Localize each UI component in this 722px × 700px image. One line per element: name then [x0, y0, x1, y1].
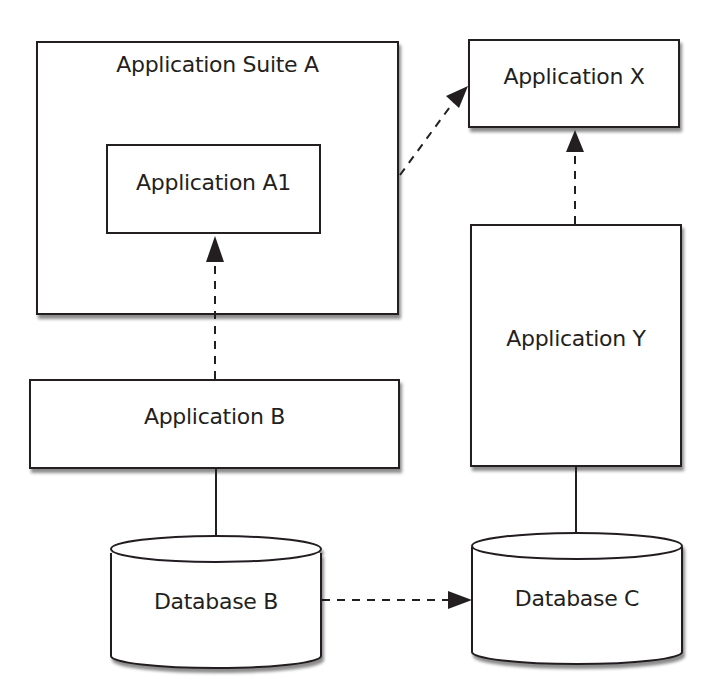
- arrowhead-x-diag: [446, 86, 468, 108]
- arrowhead-a1: [206, 236, 224, 262]
- edge-suitea-to-x: [400, 100, 455, 175]
- arrowhead-x-vert: [566, 130, 584, 152]
- database-c-label: Database C: [472, 586, 682, 611]
- arrowhead-dbc: [448, 591, 472, 609]
- database-b-label: Database B: [111, 589, 321, 614]
